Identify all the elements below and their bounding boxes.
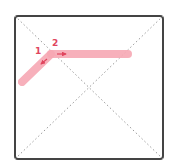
diagram-canvas: 1 2 — [0, 0, 177, 168]
diagonal-line-top-right-to-bottom-left — [15, 16, 163, 159]
step-label-1: 1 — [35, 46, 41, 56]
step-label-2: 2 — [52, 38, 58, 48]
highlight-stroke-1 — [22, 54, 51, 82]
